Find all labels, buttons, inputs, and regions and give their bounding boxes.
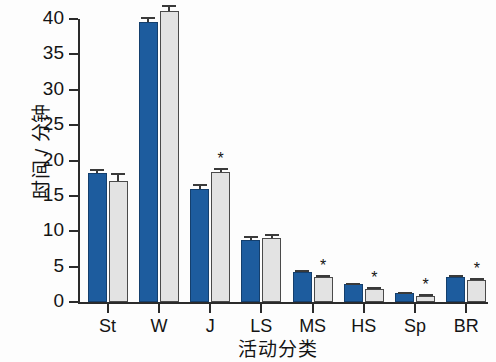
y-tick-label: 25 [43,113,64,135]
x-axis-title: 活动分类 [60,334,496,361]
x-tick [158,304,160,313]
y-tick-label: 20 [43,149,64,171]
y-axis-line [78,19,80,302]
y-tick: 35 [69,53,78,55]
error-bar-cap [449,275,463,277]
error-bar-cap [398,292,412,294]
error-bar-cap [295,270,309,272]
y-tick-label: 10 [43,219,64,241]
error-bar-cap [244,236,258,238]
error-bar-cap [141,17,155,19]
x-tick [312,304,314,313]
y-tick: 25 [69,124,78,126]
error-bar-cap [90,169,104,171]
x-tick [363,304,365,313]
significance-marker-br: * [474,261,480,277]
bar-ls-series-b [262,238,281,302]
y-tick: 5 [69,266,78,268]
bar-w-series-a [139,22,158,302]
y-tick-label: 35 [43,42,64,64]
bar-w-series-b [160,11,179,302]
error-bar-cap [316,275,330,277]
error-bar-cap [162,5,176,7]
x-tick [260,304,262,313]
y-tick-label: 30 [43,78,64,100]
error-bar-cap [214,168,228,170]
bar-st-series-a [88,173,107,302]
bar-br-series-b [467,280,486,302]
y-tick-label: 0 [53,290,64,312]
significance-marker-ms: * [320,258,326,274]
y-tick: 40 [69,18,78,20]
bar-ms-series-a [293,272,312,302]
error-bar-cap [111,173,125,175]
y-tick-label: 40 [43,7,64,29]
bar-hs-series-a [344,284,363,302]
x-tick [107,304,109,313]
error-bar-cap [265,234,279,236]
significance-marker-sp: * [423,277,429,293]
significance-marker-j: * [218,151,224,167]
y-tick-label: 15 [43,184,64,206]
y-tick: 30 [69,89,78,91]
error-bar-cap [367,287,381,289]
y-tick: 0 [69,301,78,303]
y-tick: 15 [69,195,78,197]
bar-ls-series-a [241,240,260,302]
bar-hs-series-b [365,289,384,302]
bar-st-series-b [109,181,128,302]
bar-sp-series-b [416,296,435,302]
plot-area: 0510152025303540 StWJLSMSHSSpBR ***** [78,12,488,302]
x-axis-line [78,302,488,304]
x-tick [465,304,467,313]
error-bar-cap [419,294,433,296]
bar-j-series-a [190,189,209,302]
y-tick: 20 [69,160,78,162]
error-bar-cap [193,184,207,186]
x-tick [414,304,416,313]
bar-j-series-b [211,172,230,302]
bar-ms-series-b [314,277,333,302]
error-bar-cap [470,278,484,280]
y-tick: 10 [69,230,78,232]
x-tick [209,304,211,313]
bar-br-series-a [446,277,465,302]
y-tick-label: 5 [53,255,64,277]
significance-marker-hs: * [371,270,377,286]
bar-chart-figure: 时间 / 分钟 0510152025303540 StWJLSMSHSSpBR … [0,0,496,362]
bar-sp-series-a [395,293,414,302]
error-bar-cap [346,283,360,285]
